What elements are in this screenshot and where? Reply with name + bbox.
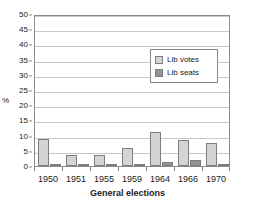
bar [38, 139, 49, 166]
y-axis-tick-label: 15 [19, 117, 28, 125]
y-axis-tick-mark [29, 151, 32, 152]
bar-group [66, 16, 89, 166]
y-axis-tick-label: 30 [19, 72, 28, 80]
legend: Lib votes Lib seats [150, 49, 218, 83]
bar-group [38, 16, 61, 166]
x-axis-tick-label: 1970 [206, 174, 226, 184]
x-axis-tick-mark [90, 167, 91, 171]
x-axis-title: General elections [0, 188, 255, 198]
y-axis-tick-mark [29, 30, 32, 31]
bar [206, 143, 217, 166]
x-axis-tick-mark [202, 167, 203, 171]
y-axis-tick-label: 50 [19, 11, 28, 19]
y-axis-tick-mark [29, 136, 32, 137]
y-axis-tick-mark [29, 106, 32, 107]
x-axis-tick-mark [174, 167, 175, 171]
legend-swatch-icon-lib-votes [155, 56, 163, 64]
y-axis-tick-mark [29, 75, 32, 76]
bar-group [206, 16, 229, 166]
x-axis-tick-label: 1951 [66, 174, 86, 184]
y-axis-tick-label: 40 [19, 41, 28, 49]
y-axis-tick-mark [29, 167, 32, 168]
bar [50, 164, 61, 166]
bar [106, 164, 117, 166]
bar [150, 132, 161, 166]
x-axis-tick-label: 1964 [150, 174, 170, 184]
bar-chart: 05101520253035404550 % 19501951195519591… [0, 0, 255, 206]
x-axis-tick-mark [118, 167, 119, 171]
x-axis-tick-mark [62, 167, 63, 171]
bar [134, 164, 145, 166]
bar-group [178, 16, 201, 166]
legend-label-lib-seats: Lib seats [167, 68, 199, 77]
x-axis-tick-label: 1950 [38, 174, 58, 184]
legend-item-lib-seats: Lib seats [155, 66, 213, 79]
x-axis-tick-label: 1955 [94, 174, 114, 184]
x-axis-tick-mark [146, 167, 147, 171]
bar [190, 160, 201, 166]
x-axis-tick-label: 1959 [122, 174, 142, 184]
y-axis-tick-label: 25 [19, 87, 28, 95]
y-axis-tick-mark [29, 15, 32, 16]
y-axis-tick-label: 0 [24, 163, 28, 171]
bar [122, 148, 133, 166]
bar-group [150, 16, 173, 166]
bar-group [94, 16, 117, 166]
legend-swatch-icon-lib-seats [155, 69, 163, 77]
bars-layer [35, 16, 229, 166]
x-axis-tick-labels: 1950195119551959196419661970 [34, 174, 230, 186]
y-axis-tick-label: 10 [19, 133, 28, 141]
y-axis-tick-label: 20 [19, 102, 28, 110]
x-axis-ticks [34, 167, 230, 173]
bar [178, 140, 189, 166]
bar [162, 162, 173, 166]
bar [78, 164, 89, 166]
y-axis-tick-label: 5 [24, 148, 28, 156]
y-axis-tick-mark [29, 121, 32, 122]
x-axis-tick-mark [229, 167, 230, 171]
x-axis-tick-mark [34, 167, 35, 171]
legend-item-lib-votes: Lib votes [155, 53, 213, 66]
x-axis-tick-label: 1966 [178, 174, 198, 184]
y-axis-label: % [2, 97, 9, 105]
y-axis-tick-mark [29, 60, 32, 61]
bar [218, 164, 229, 166]
y-axis-tick-label: 35 [19, 57, 28, 65]
y-axis-tick-mark [29, 91, 32, 92]
legend-label-lib-votes: Lib votes [167, 55, 199, 64]
plot-area [34, 15, 230, 167]
y-axis-tick-mark [29, 45, 32, 46]
y-axis: 05101520253035404550 [0, 15, 32, 167]
y-axis-tick-label: 45 [19, 26, 28, 34]
bar [66, 155, 77, 166]
bar [94, 155, 105, 166]
bar-group [122, 16, 145, 166]
